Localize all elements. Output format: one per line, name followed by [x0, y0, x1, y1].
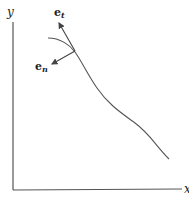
x-axis	[13, 189, 182, 190]
y-axis-label: y	[6, 5, 14, 19]
x-axis-label: x	[184, 182, 189, 196]
normal-vector-arrow	[52, 51, 75, 64]
tangent-vector-label: et	[54, 6, 65, 20]
diagram-canvas: y x et en	[0, 0, 189, 197]
normal-vector-label: en	[35, 60, 48, 74]
tangent-vector-arrow	[59, 23, 75, 51]
